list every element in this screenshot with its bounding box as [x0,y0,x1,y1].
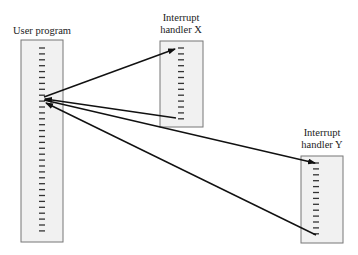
user-program-label: User program [13,25,71,36]
arrow-user-to-handler-x [44,49,175,97]
handler-x-label-line1: Interrupt [163,12,200,23]
interrupt-diagram: User program Interrupt handler X Interru… [0,0,358,255]
handler-y-box [301,156,343,243]
handler-x-label-line2: handler X [160,24,202,35]
handler-y-label-line2: handler Y [301,139,343,150]
user-program-box [21,40,63,242]
handler-y-label-line1: Interrupt [304,127,341,138]
